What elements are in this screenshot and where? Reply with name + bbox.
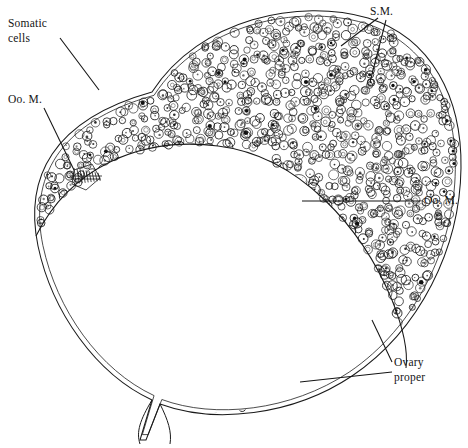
leader-ovary-proper-a	[372, 320, 392, 362]
figure-page: Somatic cells Oo. M. S.M. Oo. M. Ovary p…	[0, 0, 468, 448]
oocyte-membrane-structure	[70, 164, 102, 190]
leader-somatic-cells	[60, 38, 99, 90]
label-somatic-membrane: S.M.	[370, 4, 393, 19]
label-oocyte-membrane-left: Oo. M.	[8, 92, 42, 107]
label-ovary-proper: Ovary proper	[394, 355, 425, 384]
label-somatic-cells: Somatic cells	[8, 16, 47, 45]
label-oocyte-membrane-right: Oo. M.	[424, 193, 458, 208]
leader-ovary-proper-b	[300, 372, 392, 382]
